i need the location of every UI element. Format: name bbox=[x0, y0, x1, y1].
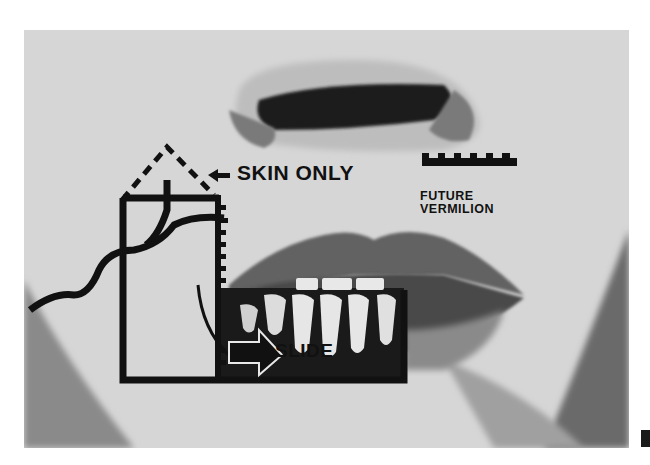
teeth bbox=[219, 278, 404, 380]
clinical-figure: SKIN ONLY FUTURE VERMILION SLIDE bbox=[0, 0, 650, 465]
future-vermilion-label: FUTURE VERMILION bbox=[420, 190, 494, 216]
slide-label: SLIDE bbox=[275, 341, 333, 360]
panel-letter-fragment bbox=[641, 430, 650, 447]
skin-only-label: SKIN ONLY bbox=[237, 162, 354, 183]
future-vermilion-line2: VERMILION bbox=[420, 203, 494, 216]
face-photograph bbox=[24, 30, 629, 448]
photo-illustration bbox=[24, 30, 629, 448]
